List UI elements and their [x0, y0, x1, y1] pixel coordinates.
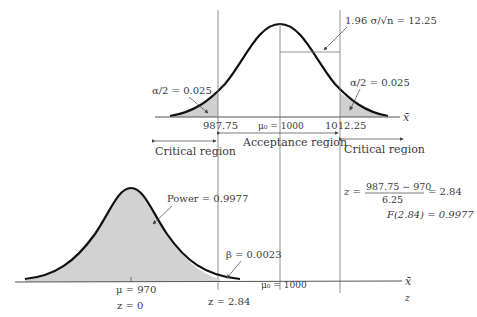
- se-pointer: [324, 27, 347, 50]
- null-distribution-curve: [170, 24, 388, 116]
- bottom-panel: x̄ z Power = 0.9977 β = 0.0023 μ = 970 z…: [15, 188, 412, 311]
- power-label: Power = 0.9977: [167, 193, 248, 204]
- alpha-right-label: α/2 = 0.025: [350, 77, 410, 88]
- beta-label: β = 0.0023: [226, 249, 282, 260]
- z-prefix: z =: [343, 186, 361, 197]
- alpha-left-label: α/2 = 0.025: [152, 85, 212, 96]
- top-axis-label: x̄: [403, 111, 410, 124]
- se-label: 1.96 σ/√n = 12.25: [345, 15, 437, 26]
- cdf-equation: F(2.84) = 0.9977: [386, 209, 474, 220]
- z-result: = 2.84: [428, 186, 462, 197]
- power-diagram: x̄ 1.96 σ/√n = 12.25 α/2 = 0.025 α/2 = 0…: [0, 0, 477, 317]
- lower-critical-value: 987.75: [203, 120, 238, 131]
- bottom-axis-label-xbar: x̄: [405, 275, 412, 288]
- z0-label: z = 0: [117, 300, 143, 311]
- mu0-bottom-label: μ₀ = 1000: [261, 280, 307, 290]
- mu0-top-label: μ₀ = 1000: [258, 121, 304, 131]
- critical-region-left: Critical region: [155, 145, 236, 158]
- beta-pointer: [227, 261, 241, 278]
- acceptance-region: Acceptance region: [242, 136, 347, 149]
- z-numerator: 987.75 − 970: [366, 181, 431, 192]
- z-crit-label: z = 2.84: [208, 296, 250, 307]
- equations: z = 987.75 − 970 6.25 = 2.84 F(2.84) = 0…: [343, 181, 474, 220]
- mu-label: μ = 970: [116, 284, 156, 295]
- bottom-axis-label-z: z: [404, 293, 410, 303]
- upper-critical-value: 1012.25: [325, 120, 366, 131]
- critical-region-right: Critical region: [344, 143, 425, 156]
- z-denominator: 6.25: [382, 194, 403, 205]
- top-panel: x̄ 1.96 σ/√n = 12.25 α/2 = 0.025 α/2 = 0…: [152, 10, 437, 293]
